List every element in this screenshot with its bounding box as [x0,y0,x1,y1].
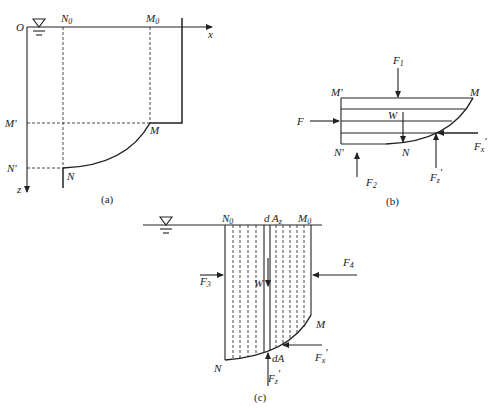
label-x-axis: x [207,28,213,40]
label-N-prime: N' [333,146,344,158]
label-M-prime: M' [4,117,17,129]
label-dAz: d Az [264,212,283,226]
label-F4: F4 [342,256,354,270]
label-Fx-prime: Fx' [473,135,487,154]
label-dA: dA [272,352,285,364]
panel-c: N0 d Az M0 F3 F4 W M N dA Fx' Fz' (c) [143,212,357,404]
label-M0: M0 [145,12,159,26]
curved-surface-MN [63,123,150,168]
label-F: F [296,115,304,127]
label-N-prime: N' [6,162,17,174]
label-M: M [149,124,160,136]
caption-b: (b) [386,195,399,208]
hydrostatic-force-diagram: O x z N0 M0 M' N' M N (a) F F1 W M' M N'… [0,0,495,408]
wall [150,18,182,123]
label-M-prime: M' [330,86,343,98]
label-N: N [401,146,410,158]
label-N: N [66,170,75,182]
label-N0: N0 [221,212,233,226]
label-Fx-prime: Fx' [314,346,328,365]
label-Fz-prime: Fz' [267,367,281,386]
label-W: W [388,109,398,121]
caption-c: (c) [254,391,267,404]
panel-a: O x z N0 M0 M' N' M N (a) [4,12,213,206]
label-z-axis: z [16,183,22,195]
caption-a: (a) [101,193,114,206]
label-F2: F2 [365,176,377,190]
label-N: N [213,362,222,374]
label-M0: M0 [297,212,311,226]
label-F1: F1 [392,54,404,68]
label-N0: N0 [60,12,72,26]
label-origin: O [16,21,24,33]
label-M: M [469,86,480,98]
label-M: M [315,318,326,330]
label-Fz-prime: Fz' [429,166,443,185]
label-F3: F3 [199,275,211,289]
panel-b: F F1 W M' M N' N F2 Fx' Fz' (b) [296,54,487,208]
label-W: W [254,277,264,289]
